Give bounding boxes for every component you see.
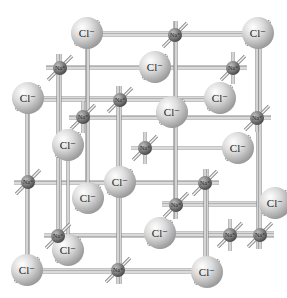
chloride-ion: Cl⁻ bbox=[52, 129, 84, 161]
sodium-label: Na⁺ bbox=[115, 97, 125, 103]
chloride-label: Cl⁻ bbox=[230, 142, 246, 154]
sodium-ion: Na⁺ bbox=[226, 61, 240, 75]
sodium-ion: Na⁺ bbox=[113, 93, 127, 107]
sodium-label: Na⁺ bbox=[140, 145, 150, 151]
sodium-label: Na⁺ bbox=[78, 114, 88, 120]
sodium-label: Na⁺ bbox=[252, 115, 262, 121]
sodium-ion: Na⁺ bbox=[253, 228, 267, 242]
chloride-label: Cl⁻ bbox=[112, 176, 128, 188]
sodium-ion: Na⁺ bbox=[168, 28, 182, 42]
chloride-ion: Cl⁻ bbox=[144, 217, 176, 249]
chloride-ion: Cl⁻ bbox=[242, 17, 274, 49]
chloride-ion: Cl⁻ bbox=[12, 82, 44, 114]
chloride-ion: Cl⁻ bbox=[104, 166, 136, 198]
chloride-ion: Cl⁻ bbox=[222, 132, 254, 164]
sodium-label: Na⁺ bbox=[113, 267, 123, 273]
sodium-label: Na⁺ bbox=[53, 233, 63, 239]
sodium-ion: Na⁺ bbox=[250, 111, 264, 125]
chloride-ion: Cl⁻ bbox=[156, 96, 188, 128]
chloride-label: Cl⁻ bbox=[147, 61, 163, 73]
sodium-ion: Na⁺ bbox=[198, 176, 212, 190]
sodium-ion: Na⁺ bbox=[21, 175, 35, 189]
chloride-label: Cl⁻ bbox=[199, 266, 215, 278]
sodium-label: Na⁺ bbox=[55, 65, 65, 71]
sodium-ion: Na⁺ bbox=[111, 263, 125, 277]
chloride-label: Cl⁻ bbox=[60, 244, 76, 256]
sodium-label: Na⁺ bbox=[23, 179, 33, 185]
sodium-label: Na⁺ bbox=[228, 65, 238, 71]
sodium-label: Na⁺ bbox=[170, 32, 180, 38]
sodium-ion: Na⁺ bbox=[138, 141, 152, 155]
sodium-ion: Na⁺ bbox=[223, 228, 237, 242]
sodium-label: Na⁺ bbox=[200, 180, 210, 186]
chloride-ion: Cl⁻ bbox=[139, 51, 171, 83]
sodium-ion: Na⁺ bbox=[76, 110, 90, 124]
chloride-label: Cl⁻ bbox=[267, 197, 283, 209]
chloride-label: Cl⁻ bbox=[80, 192, 96, 204]
chloride-ion: Cl⁻ bbox=[11, 254, 43, 286]
chloride-ion: Cl⁻ bbox=[71, 17, 103, 49]
chloride-label: Cl⁻ bbox=[60, 139, 76, 151]
chloride-label: Cl⁻ bbox=[152, 227, 168, 239]
nacl-lattice-diagram: Cl⁻Cl⁻Cl⁻Cl⁻Cl⁻Cl⁻Cl⁻Cl⁻Cl⁻Cl⁻Cl⁻Cl⁻Cl⁻C… bbox=[0, 0, 287, 298]
chloride-ion: Cl⁻ bbox=[204, 82, 236, 114]
chloride-ion: Cl⁻ bbox=[191, 256, 223, 288]
chloride-label: Cl⁻ bbox=[79, 27, 95, 39]
chloride-label: Cl⁻ bbox=[20, 92, 36, 104]
sodium-label: Na⁺ bbox=[225, 232, 235, 238]
sodium-ion: Na⁺ bbox=[169, 198, 183, 212]
chloride-ion: Cl⁻ bbox=[72, 182, 104, 214]
chloride-label: Cl⁻ bbox=[19, 264, 35, 276]
sodium-ion: Na⁺ bbox=[53, 61, 67, 75]
sodium-label: Na⁺ bbox=[255, 232, 265, 238]
sodium-ion: Na⁺ bbox=[51, 229, 65, 243]
chloride-label: Cl⁻ bbox=[250, 27, 266, 39]
sodium-label: Na⁺ bbox=[171, 202, 181, 208]
chloride-label: Cl⁻ bbox=[212, 92, 228, 104]
lattice-svg: Cl⁻Cl⁻Cl⁻Cl⁻Cl⁻Cl⁻Cl⁻Cl⁻Cl⁻Cl⁻Cl⁻Cl⁻Cl⁻C… bbox=[0, 0, 287, 298]
chloride-label: Cl⁻ bbox=[164, 106, 180, 118]
